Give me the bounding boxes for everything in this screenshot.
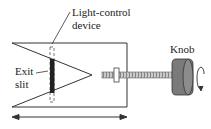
width-double-arrow bbox=[12, 115, 127, 120]
exit-slit-bar bbox=[50, 59, 55, 93]
light-control-leader bbox=[52, 12, 70, 44]
light-control-device bbox=[50, 47, 55, 102]
light-control-label-line1: Light-control bbox=[72, 7, 131, 18]
exit-slit-label-line2: slit bbox=[15, 79, 28, 90]
screw-rod bbox=[102, 68, 172, 82]
monochromator-slit-diagram: Light-control device Exit slit Knob bbox=[0, 0, 211, 129]
light-control-label-line2: device bbox=[72, 20, 101, 31]
exit-slit-leader bbox=[36, 71, 48, 73]
knob bbox=[172, 59, 193, 95]
screw-collar bbox=[114, 68, 119, 82]
rotation-arrow-icon bbox=[197, 67, 204, 91]
knob-label: Knob bbox=[170, 44, 194, 55]
exit-slit-label-line1: Exit bbox=[15, 66, 33, 77]
